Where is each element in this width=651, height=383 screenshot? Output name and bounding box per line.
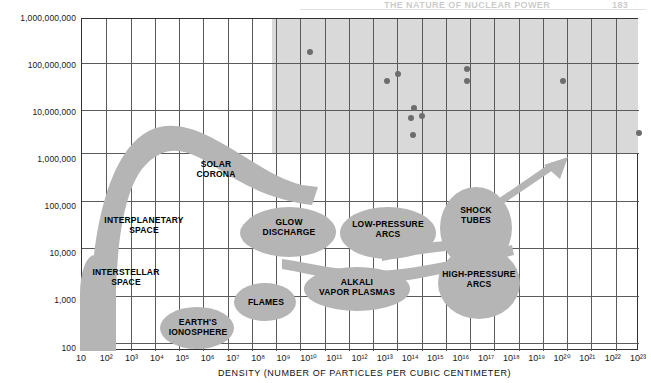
region-label-high-pressure-arcs: HIGH-PRESSURE ARCS — [434, 269, 524, 289]
region-label-low-pressure-arcs: LOW-PRESSURE ARCS — [340, 219, 436, 239]
data-point — [464, 78, 470, 84]
x-axis-title: DENSITY (NUMBER OF PARTICLES PER CUBIC C… — [218, 368, 511, 378]
data-point — [384, 78, 390, 84]
region-label-interplanetary-space: INTERPLANETARY SPACE — [84, 215, 204, 235]
y-tick-label: 1,000 — [0, 295, 76, 305]
region-label-solar-corona: SOLAR CORONA — [178, 159, 254, 179]
y-tick-label: 100,000 — [0, 201, 76, 211]
y-tick-label: 10,000 — [0, 248, 76, 258]
region-label-interstellar-space: INTERSTELLAR SPACE — [78, 267, 174, 287]
y-tick-label: 1,000,000,000 — [0, 13, 76, 23]
y-tick-label: 100 — [0, 343, 76, 353]
y-tick-label: 10,000,000 — [0, 107, 76, 117]
plot-area: INTERSTELLAR SPACE INTERPLANETARY SPACE … — [81, 18, 638, 350]
region-label-earths-ionosphere: EARTH'S IONOSPHERE — [158, 317, 238, 337]
y-tick-label: 1,000,000 — [0, 154, 76, 164]
y-tick-label: 100,000,000 — [0, 60, 76, 70]
data-point — [464, 66, 470, 72]
region-label-shock-tubes: SHOCK TUBES — [442, 205, 510, 225]
data-point — [307, 49, 313, 55]
region-label-flames: FLAMES — [238, 297, 294, 307]
data-point — [636, 130, 642, 136]
region-label-alkali-vapor-plasmas: ALKALI VAPOR PLASMAS — [304, 277, 410, 297]
region-label-glow-discharge: GLOW DISCHARGE — [244, 217, 334, 237]
data-point — [419, 113, 425, 119]
x-tick-label: 10²³ — [623, 353, 651, 363]
data-point — [395, 71, 401, 77]
data-point — [560, 78, 566, 84]
